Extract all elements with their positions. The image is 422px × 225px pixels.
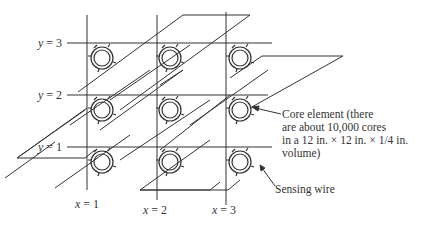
core-icon (226, 96, 254, 124)
diag-d (120, 100, 210, 160)
sensing-wire-annotation: Sensing wire (275, 183, 335, 196)
y3-label: y = 3 (38, 37, 62, 50)
x3-label: x = 3 (212, 204, 236, 217)
sense-leader-line (262, 168, 275, 186)
diag-g (190, 70, 268, 125)
core-icon (156, 44, 184, 72)
arrowhead-icon (260, 165, 265, 171)
x2-label: x = 2 (143, 204, 167, 217)
diag-h (55, 135, 130, 188)
y1-label: y = 1 (38, 141, 62, 154)
sense-loop-right (230, 56, 343, 108)
diag-e (160, 95, 230, 150)
x1-label: x = 1 (75, 198, 99, 211)
cores (88, 44, 254, 176)
arrowhead-icon (252, 106, 259, 111)
diag-f (110, 45, 190, 100)
core-memory-diagram: y = 3 y = 2 y = 1 x = 1 x = 2 x = 3 Core… (0, 0, 422, 225)
bottom-mid-return (140, 182, 220, 190)
core-element-annotation: Core element (there are about 10,000 cor… (282, 108, 408, 160)
core-icon (226, 44, 254, 72)
core-icon (226, 148, 254, 176)
y2-label: y = 2 (38, 89, 62, 102)
